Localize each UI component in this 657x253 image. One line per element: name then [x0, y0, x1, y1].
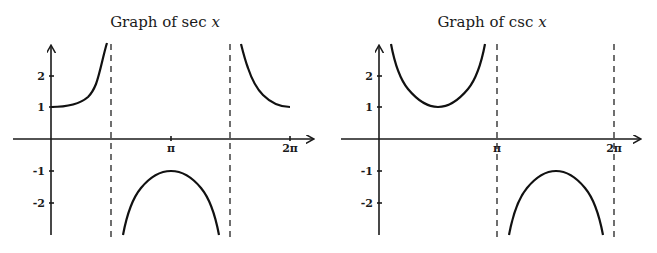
sec-y-tick-label-1: 1 [37, 101, 45, 114]
csc-curve-branch-2 [509, 171, 603, 235]
sec-chart-title: Graph of sec x [110, 13, 220, 31]
sec-y-tick-label-neg2: -2 [33, 197, 45, 210]
sec-x-tick-label-pi: π [167, 142, 175, 155]
sec-y-tick-label-neg1: -1 [33, 165, 45, 178]
sec-curve-branch-3 [241, 44, 290, 107]
csc-chart-title: Graph of csc x [437, 13, 547, 31]
csc-chart: Graph of csc x π 2π 2 1 -1 -2 [341, 13, 640, 237]
sec-chart: Graph of sec x π 2π 2 1 -1 -2 [13, 13, 313, 237]
sec-y-tick-label-2: 2 [37, 70, 45, 83]
csc-curve-branch-1 [391, 44, 485, 107]
csc-y-tick-label-1: 1 [365, 101, 373, 114]
chart-canvas: Graph of sec x π 2π 2 1 -1 -2 Graph of c… [0, 0, 657, 253]
sec-curve-branch-1 [51, 43, 107, 107]
csc-y-tick-label-neg2: -2 [361, 197, 373, 210]
csc-y-tick-label-neg1: -1 [361, 165, 373, 178]
sec-curve-branch-2 [123, 171, 219, 235]
sec-x-tick-label-2pi: 2π [282, 142, 298, 155]
csc-y-tick-label-2: 2 [365, 70, 373, 83]
